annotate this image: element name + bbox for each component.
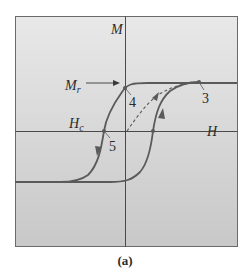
hysteresis-diagram: M H 3 4 5 Mr Hc (a) — [0, 0, 250, 277]
point-3-label: 3 — [202, 91, 209, 106]
h-axis-label: H — [206, 124, 218, 139]
point-4-label: 4 — [129, 95, 136, 110]
point-5-label: 5 — [109, 139, 116, 154]
figure-caption: (a) — [117, 253, 132, 268]
m-axis-label: M — [110, 22, 124, 37]
positive-coercivity-marker — [151, 129, 155, 133]
